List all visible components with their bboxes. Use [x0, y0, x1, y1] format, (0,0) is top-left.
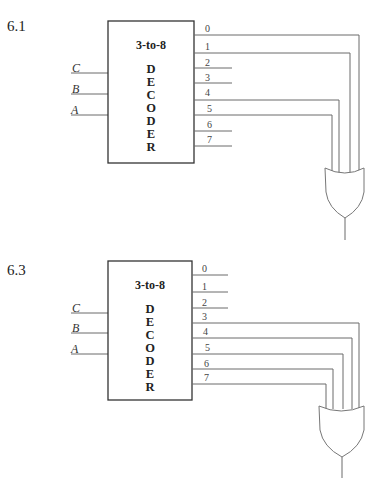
decoder-letter: O — [145, 341, 155, 355]
output-label-7: 7 — [207, 134, 212, 145]
output-label-6: 6 — [204, 358, 209, 369]
decoder-letter: E — [146, 367, 154, 381]
decoder-letter: D — [145, 354, 154, 368]
input-label-b: B — [72, 82, 80, 96]
output-label-0: 0 — [202, 263, 207, 274]
output-label-2: 2 — [205, 57, 210, 68]
output-wire-1 — [194, 53, 350, 174]
output-wire-7 — [192, 384, 326, 410]
decoder-letter: D — [146, 114, 155, 128]
output-label-6: 6 — [207, 119, 212, 130]
input-label-c: C — [72, 301, 81, 315]
output-label-3: 3 — [205, 72, 210, 83]
decoder-letter: R — [145, 380, 155, 394]
output-label-5: 5 — [207, 103, 212, 114]
output-label-1: 1 — [205, 41, 210, 52]
decoder-title: 3-to-8 — [136, 38, 166, 52]
output-label-4: 4 — [205, 87, 210, 98]
decoder-diagrams: 6.1 C B A 3-to-8 D E C O D E R 0 1 2 3 4… — [0, 0, 391, 490]
decoder-letter: D — [145, 302, 154, 316]
decoder-letter: R — [146, 140, 156, 154]
problem-label: 6.1 — [7, 18, 26, 34]
input-label-b: B — [72, 321, 80, 335]
output-wire-3 — [192, 323, 359, 410]
output-wire-5 — [192, 354, 343, 409]
decoder-letter: D — [146, 62, 155, 76]
output-label-4: 4 — [203, 326, 208, 337]
or-gate — [319, 406, 364, 457]
output-label-7: 7 — [204, 372, 209, 383]
output-wire-4 — [194, 100, 339, 174]
input-label-a: A — [70, 103, 79, 117]
output-wire-6 — [192, 369, 333, 409]
output-wire-0 — [194, 35, 359, 175]
output-wire-5 — [194, 115, 332, 175]
decoder-letter: C — [146, 88, 155, 102]
output-label-1: 1 — [202, 281, 207, 292]
figure-6-1: 6.1 C B A 3-to-8 D E C O D E R 0 1 2 3 4… — [7, 18, 364, 240]
input-label-c: C — [72, 61, 81, 75]
output-label-5: 5 — [205, 342, 210, 353]
output-label-2: 2 — [202, 297, 207, 308]
output-label-0: 0 — [205, 23, 210, 34]
output-label-3: 3 — [202, 311, 207, 322]
decoder-letter: O — [146, 101, 156, 115]
decoder-letter: E — [147, 127, 155, 141]
decoder-letter: E — [147, 75, 155, 89]
or-gate — [325, 168, 364, 218]
decoder-title: 3-to-8 — [135, 278, 165, 292]
figure-6-3: 6.3 C B A 3-to-8 D E C O D E R 0 1 2 3 4… — [7, 261, 364, 478]
output-wire-4 — [192, 338, 352, 409]
decoder-letter: E — [146, 315, 154, 329]
input-label-a: A — [70, 342, 79, 356]
decoder-letter: C — [145, 328, 154, 342]
problem-label: 6.3 — [7, 262, 26, 278]
